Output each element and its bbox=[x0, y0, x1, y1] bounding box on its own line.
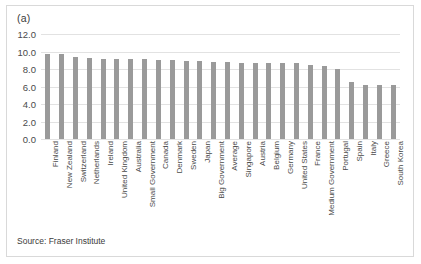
bar-slot bbox=[345, 34, 359, 139]
bar-slot bbox=[221, 34, 235, 139]
bar bbox=[156, 60, 161, 139]
source-note: Source: Fraser Institute bbox=[17, 236, 105, 246]
category-slot: New Zealand bbox=[55, 141, 69, 229]
bar bbox=[101, 59, 106, 139]
category-slot: Singapore bbox=[234, 141, 248, 229]
category-slot: Greece bbox=[373, 141, 387, 229]
bar bbox=[211, 62, 216, 139]
bar-slot bbox=[69, 34, 83, 139]
category-slot: Italy bbox=[359, 141, 373, 229]
chart-figure: (a) 12.010.08.06.04.02.00.0 FinlandNew Z… bbox=[0, 0, 421, 264]
bar bbox=[128, 59, 133, 139]
category-slot: United Kingdom bbox=[110, 141, 124, 229]
bar-slot bbox=[124, 34, 138, 139]
panel-label: (a) bbox=[17, 12, 30, 24]
bar bbox=[294, 63, 299, 139]
category-slot: France bbox=[303, 141, 317, 229]
category-slot: Switzerland bbox=[69, 141, 83, 229]
bar bbox=[170, 60, 175, 139]
bar-slot bbox=[234, 34, 248, 139]
bar bbox=[114, 59, 119, 139]
bar-slot bbox=[248, 34, 262, 139]
category-slot: South Korea bbox=[386, 141, 400, 229]
bar-slot bbox=[386, 34, 400, 139]
bar-slot bbox=[152, 34, 166, 139]
bar-slot bbox=[55, 34, 69, 139]
bar-slot bbox=[276, 34, 290, 139]
bar-slot bbox=[82, 34, 96, 139]
bar-slot bbox=[317, 34, 331, 139]
category-slot: Belgium bbox=[262, 141, 276, 229]
category-slot: Sweden bbox=[179, 141, 193, 229]
y-axis-tick-label: 10.0 bbox=[18, 47, 37, 58]
bar bbox=[87, 58, 92, 139]
bar bbox=[391, 85, 396, 139]
bar-slot bbox=[262, 34, 276, 139]
bar bbox=[59, 54, 64, 139]
bar-slot bbox=[96, 34, 110, 139]
category-slot: Ireland bbox=[96, 141, 110, 229]
y-axis-tick-label: 2.0 bbox=[23, 117, 36, 128]
bar bbox=[349, 82, 354, 139]
y-axis-tick-label: 12.0 bbox=[18, 29, 37, 40]
bar-slot bbox=[41, 34, 55, 139]
bar bbox=[266, 63, 271, 139]
bar bbox=[308, 65, 313, 139]
bar-series bbox=[41, 34, 400, 139]
category-slot: Spain bbox=[345, 141, 359, 229]
bar bbox=[280, 63, 285, 139]
category-slot: Big Government bbox=[207, 141, 221, 229]
bar bbox=[225, 62, 230, 139]
category-slot: United States bbox=[290, 141, 304, 229]
bar bbox=[335, 69, 340, 139]
bar bbox=[363, 85, 368, 139]
bar-slot bbox=[303, 34, 317, 139]
plot-area bbox=[41, 34, 400, 139]
bar bbox=[142, 59, 147, 139]
y-axis-tick-label: 6.0 bbox=[23, 82, 36, 93]
category-slot: Australia bbox=[124, 141, 138, 229]
category-label: South Korea bbox=[397, 141, 405, 185]
category-slot: Canada bbox=[152, 141, 166, 229]
bar-slot bbox=[290, 34, 304, 139]
bar bbox=[253, 63, 258, 139]
y-axis-tick-label: 8.0 bbox=[23, 64, 36, 75]
bar-slot bbox=[138, 34, 152, 139]
bar-slot bbox=[193, 34, 207, 139]
bar-slot bbox=[331, 34, 345, 139]
x-axis-category-labels: FinlandNew ZealandSwitzerlandNetherlands… bbox=[41, 141, 400, 229]
category-slot: Denmark bbox=[165, 141, 179, 229]
bar-slot bbox=[110, 34, 124, 139]
bar bbox=[377, 85, 382, 139]
bar bbox=[45, 54, 50, 139]
bar bbox=[73, 57, 78, 139]
category-slot: Portugal bbox=[331, 141, 345, 229]
y-axis-tick-labels: 12.010.08.06.04.02.00.0 bbox=[0, 34, 36, 139]
bar bbox=[197, 61, 202, 139]
category-slot: Austria bbox=[248, 141, 262, 229]
bar-slot bbox=[207, 34, 221, 139]
bar bbox=[184, 61, 189, 139]
category-slot: Small Government bbox=[138, 141, 152, 229]
category-slot: Netherlands bbox=[82, 141, 96, 229]
bar-slot bbox=[373, 34, 387, 139]
bar-slot bbox=[179, 34, 193, 139]
bar bbox=[239, 63, 244, 139]
category-slot: Average bbox=[221, 141, 235, 229]
category-slot: Medium Government bbox=[317, 141, 331, 229]
category-slot: Japan bbox=[193, 141, 207, 229]
category-slot: Germany bbox=[276, 141, 290, 229]
bar-slot bbox=[359, 34, 373, 139]
category-slot: Finland bbox=[41, 141, 55, 229]
y-axis-tick-label: 0.0 bbox=[23, 134, 36, 145]
bar bbox=[322, 66, 327, 139]
bar-slot bbox=[165, 34, 179, 139]
y-axis-tick-label: 4.0 bbox=[23, 99, 36, 110]
